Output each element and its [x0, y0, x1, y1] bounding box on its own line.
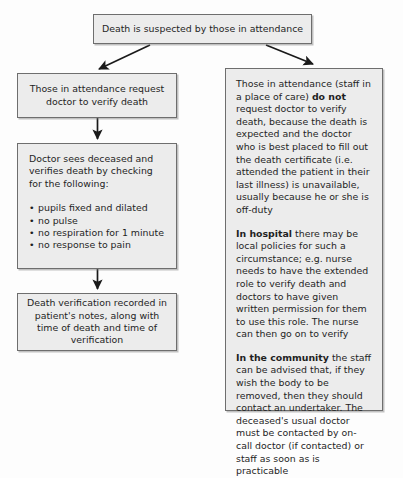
verification-checklist: pupils fixed and dilated no pulse no res… — [29, 202, 165, 252]
connector-root-to-expected — [266, 45, 313, 64]
node-death-verification-recorded: Death verification recorded in patient's… — [17, 293, 177, 351]
node-doctor-verifies-lead: Doctor sees deceased and verifies death … — [29, 153, 165, 190]
node-death-verification-recorded-label: Death verification recorded in patient's… — [26, 297, 168, 347]
expected-hospital-text: there may be local policies for such a c… — [236, 228, 368, 340]
node-death-suspected: Death is suspected by those in attendanc… — [93, 14, 312, 44]
expected-paragraph-hospital: In hospital there may be local policies … — [236, 228, 372, 341]
expected-paragraph-intro: Those in attendance (staff in a place of… — [236, 78, 372, 217]
list-item: no pulse — [29, 215, 165, 227]
list-item: no response to pain — [29, 239, 165, 251]
expected-intro-emphasis: do not — [312, 91, 346, 102]
node-doctor-verifies: Doctor sees deceased and verifies death … — [17, 143, 177, 269]
expected-community-text: the staff can be advised that, if they w… — [236, 352, 371, 476]
node-expected-death-guidance: Those in attendance (staff in a place of… — [225, 68, 383, 411]
connector-root-to-request — [99, 45, 150, 69]
expected-community-emphasis: In the community — [236, 352, 329, 363]
list-item: no respiration for 1 minute — [29, 227, 165, 239]
list-item: pupils fixed and dilated — [29, 202, 165, 214]
node-request-doctor-label: Those in attendance request doctor to ve… — [25, 83, 169, 108]
node-request-doctor: Those in attendance request doctor to ve… — [17, 73, 177, 118]
expected-hospital-emphasis: In hospital — [236, 228, 292, 239]
expected-intro-part2: request doctor to verify death, because … — [236, 103, 370, 215]
expected-intro-part1: Those in attendance (staff in a place of… — [236, 78, 371, 102]
node-death-suspected-label: Death is suspected by those in attendanc… — [100, 23, 305, 35]
expected-paragraph-community: In the community the staff can be advise… — [236, 352, 372, 478]
